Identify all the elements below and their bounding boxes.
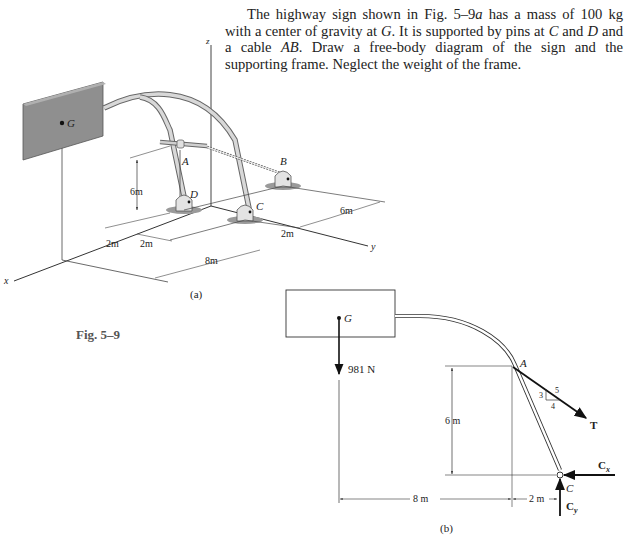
caption-b: (b) xyxy=(440,522,453,535)
slope-run: 4 xyxy=(551,402,555,411)
tension-label: T xyxy=(590,419,598,431)
dim-2m-b: 2m xyxy=(140,238,153,249)
dim-2m-c: 2m xyxy=(281,228,294,239)
dim-2m-fbd: 2 m xyxy=(529,493,545,504)
point-a-label: A xyxy=(181,155,189,167)
y-axis-label: y xyxy=(370,241,376,252)
dim-8m-fbd: 8 m xyxy=(413,493,429,504)
point-d-label: D xyxy=(189,188,198,200)
cy-label: Cy xyxy=(566,500,578,515)
fbd-point-c-label: C xyxy=(566,482,574,494)
fbd-point-g-label: G xyxy=(344,312,352,324)
point-b-label: B xyxy=(280,155,287,167)
fbd-point-a-label: A xyxy=(519,357,527,369)
slope-hyp: 5 xyxy=(555,386,559,395)
figure-canvas: z x y G A B D C xyxy=(0,0,627,541)
dim-6m-height: 6m xyxy=(130,186,143,197)
tension-arrow xyxy=(513,367,586,418)
figure-number: Fig. 5–9 xyxy=(76,327,120,343)
weight-label: 981 N xyxy=(348,363,375,375)
dim-6m-fbd: 6 m xyxy=(445,415,461,426)
caption-a: (a) xyxy=(190,288,203,301)
cx-label: Cx xyxy=(598,459,610,474)
figure-b: G 981 N A T 3 4 5 6 m Cx C Cy 8 m xyxy=(286,290,615,535)
point-g-label: G xyxy=(67,117,75,129)
z-axis-label: z xyxy=(205,36,210,46)
dim-6m-right: 6m xyxy=(340,205,353,216)
dim-8m: 8m xyxy=(205,255,218,266)
slope-rise: 3 xyxy=(539,391,543,400)
sign-outline xyxy=(286,290,395,337)
x-axis-label: x xyxy=(3,275,9,286)
figure-a: z x y G A B D C xyxy=(3,36,385,301)
dim-2m-a: 2m xyxy=(106,238,119,249)
point-c-label: C xyxy=(256,200,264,212)
